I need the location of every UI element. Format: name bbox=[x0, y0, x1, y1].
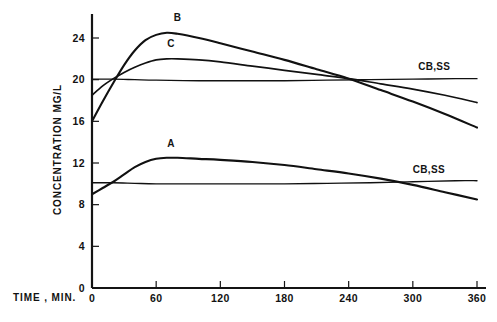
x-axis-title: TIME , MIN. bbox=[13, 292, 76, 303]
x-tick-label-0: 0 bbox=[89, 292, 95, 304]
y-tick-label-24: 24 bbox=[73, 32, 85, 44]
x-tick-label-60: 60 bbox=[150, 292, 162, 304]
annotation-cb-ss-4: CB,SS bbox=[413, 164, 445, 175]
x-tick-label-180: 180 bbox=[275, 292, 294, 304]
y-tick-label-0: 0 bbox=[79, 282, 85, 294]
x-tick-label-240: 240 bbox=[339, 292, 358, 304]
curve-cb-ss-upper bbox=[92, 79, 477, 81]
y-tick-label-4: 4 bbox=[79, 240, 85, 252]
curve-annotations: BCACB,SSCB,SS bbox=[167, 12, 450, 175]
annotation-b-0: B bbox=[174, 12, 182, 23]
concentration-vs-time-chart: 04812162024 060120180240300360 CONCENTRA… bbox=[0, 0, 497, 322]
curve-cb-ss-lower bbox=[92, 181, 477, 184]
x-axis-tick-labels: 060120180240300360 bbox=[89, 292, 486, 304]
annotation-c-1: C bbox=[167, 38, 175, 49]
y-axis-tick-labels: 04812162024 bbox=[73, 32, 85, 294]
y-tick-label-16: 16 bbox=[73, 115, 85, 127]
x-tick-label-300: 300 bbox=[403, 292, 422, 304]
axes-group bbox=[92, 14, 486, 288]
x-tick-label-120: 120 bbox=[211, 292, 230, 304]
y-tick-label-12: 12 bbox=[73, 157, 85, 169]
y-tick-label-8: 8 bbox=[79, 198, 85, 210]
y-tick-label-20: 20 bbox=[73, 73, 85, 85]
annotation-a-2: A bbox=[167, 138, 175, 149]
y-axis-title: CONCENTRATION MG/L bbox=[52, 84, 63, 215]
x-tick-label-360: 360 bbox=[468, 292, 487, 304]
chart-figure: 04812162024 060120180240300360 CONCENTRA… bbox=[0, 0, 497, 322]
annotation-cb-ss-3: CB,SS bbox=[418, 61, 450, 72]
